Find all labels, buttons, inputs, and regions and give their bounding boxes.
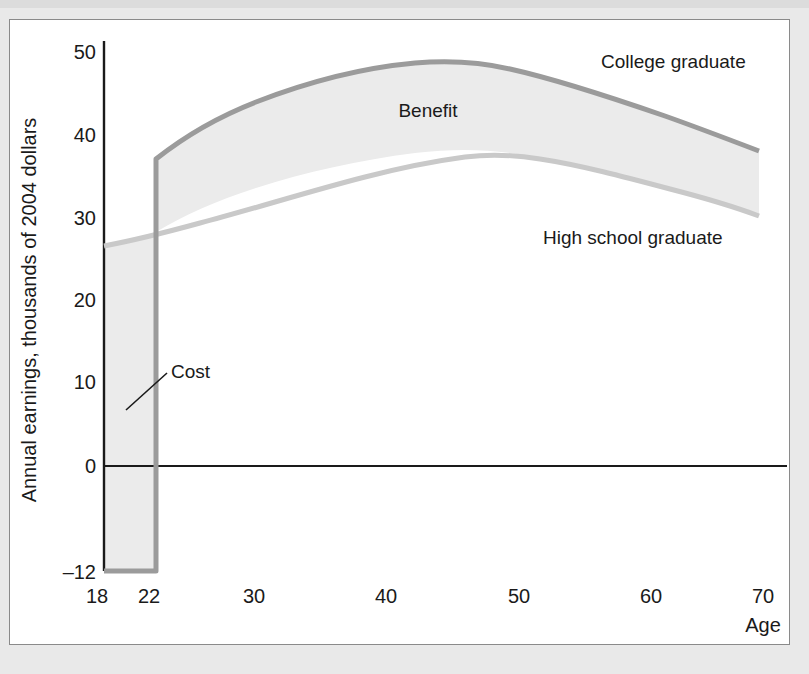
y-tick-label-0: 0: [85, 455, 96, 477]
figure-root: 50 40 30 20 10 0 –12 18 22 30 40 50 60 7…: [0, 0, 809, 674]
x-tick-label-60: 60: [640, 585, 662, 607]
figure-panel: 50 40 30 20 10 0 –12 18 22 30 40 50 60 7…: [9, 19, 790, 645]
y-tick-label-30: 30: [74, 207, 96, 229]
page-top-band: [0, 0, 809, 8]
x-axis-title: Age: [745, 614, 781, 636]
y-tick-label-50: 50: [74, 41, 96, 63]
x-tick-label-50: 50: [508, 585, 530, 607]
region-label-benefit: Benefit: [398, 100, 458, 121]
x-tick-label-22: 22: [138, 585, 160, 607]
y-axis-title: Annual earnings, thousands of 2004 dolla…: [18, 118, 40, 503]
y-tick-label-10: 10: [74, 371, 96, 393]
y-tick-label-40: 40: [74, 124, 96, 146]
series-label-college-graduate: College graduate: [601, 51, 746, 72]
x-tick-label-70: 70: [752, 585, 774, 607]
x-tick-label-40: 40: [375, 585, 397, 607]
benefit-band-area: [156, 62, 759, 232]
earnings-chart: 50 40 30 20 10 0 –12 18 22 30 40 50 60 7…: [10, 20, 789, 644]
x-tick-label-30: 30: [243, 585, 265, 607]
cost-area: [104, 234, 156, 571]
region-label-cost: Cost: [171, 361, 211, 382]
y-tick-label-20: 20: [74, 289, 96, 311]
y-tick-label-minus12: –12: [63, 561, 96, 583]
x-tick-label-18: 18: [86, 585, 108, 607]
series-label-high-school-graduate: High school graduate: [543, 227, 723, 248]
